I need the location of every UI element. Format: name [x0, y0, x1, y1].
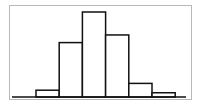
histogram	[0, 0, 197, 111]
histogram-bar	[82, 12, 105, 97]
histogram-bar	[36, 90, 59, 97]
bars-group	[36, 12, 175, 97]
histogram-bar	[106, 35, 129, 97]
histogram-bar	[129, 83, 152, 97]
histogram-bar	[59, 43, 82, 97]
